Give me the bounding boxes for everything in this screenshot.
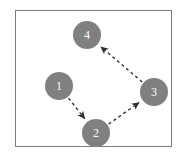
graph-edge-2-to-3 — [109, 103, 139, 124]
graph-node-label: 2 — [93, 127, 99, 139]
graph-edge-1-to-2 — [69, 98, 85, 118]
diagram-canvas: 1234 — [0, 0, 185, 164]
edge-group — [69, 47, 143, 124]
graph-node-label: 3 — [151, 86, 157, 98]
graph-node-1[interactable]: 1 — [45, 72, 73, 100]
graph-node-label: 4 — [84, 29, 90, 41]
graph-node-4[interactable]: 4 — [73, 21, 101, 49]
graph-node-2[interactable]: 2 — [82, 119, 110, 147]
graph-node-label: 1 — [56, 80, 62, 92]
graph-edge-3-to-4 — [101, 47, 142, 82]
graph-node-3[interactable]: 3 — [140, 78, 168, 106]
